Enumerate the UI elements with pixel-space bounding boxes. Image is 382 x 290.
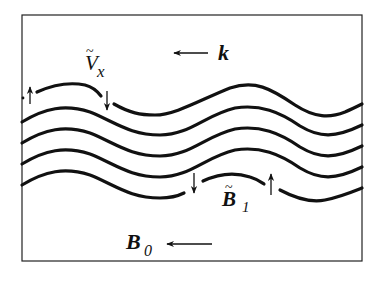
background-field-label: B 0 [125,229,152,259]
svg-text:~: ~ [225,180,233,195]
field-line-5c [280,188,362,201]
field-lines [22,84,362,201]
field-line-1a [37,84,101,96]
velocity-label: V ~ x [85,44,105,81]
svg-text:1: 1 [242,199,250,215]
svg-text:~: ~ [86,44,94,59]
field-perturbation-label: B ~ 1 [221,180,250,215]
svg-text:B: B [125,229,141,254]
svg-text:0: 0 [144,242,152,259]
perturbation-arrows [22,87,271,195]
k-label: k [218,40,229,65]
svg-text:x: x [96,62,105,81]
field-line-5b [203,174,264,184]
field-line-5a [22,171,184,198]
plot-frame [22,15,362,261]
alfven-wave-diagram: k V ~ x B ~ 1 B 0 [0,0,382,290]
field-line-1b [114,85,362,116]
dot-marker-icon [22,97,25,100]
